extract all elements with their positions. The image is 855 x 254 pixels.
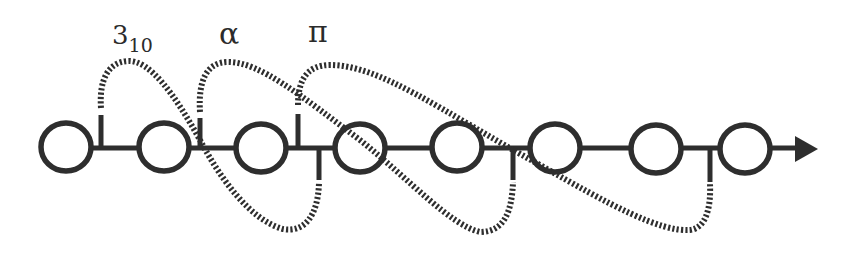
residue-4 <box>335 124 385 172</box>
label-pi: π <box>308 14 328 49</box>
residue-1 <box>41 123 91 171</box>
residue-2 <box>139 123 189 171</box>
residue-7 <box>631 125 681 173</box>
label-3-10-main: 3 <box>112 20 129 50</box>
helix-hbond-diagram: 310 α π <box>0 0 855 254</box>
backbone-arrowhead-icon <box>795 136 818 162</box>
residue-8 <box>720 125 770 173</box>
residue-3 <box>236 124 286 172</box>
label-alpha: α <box>219 16 239 51</box>
residue-5 <box>432 123 482 171</box>
label-3-10: 310 <box>112 20 153 56</box>
label-3-10-sub: 10 <box>129 34 153 56</box>
